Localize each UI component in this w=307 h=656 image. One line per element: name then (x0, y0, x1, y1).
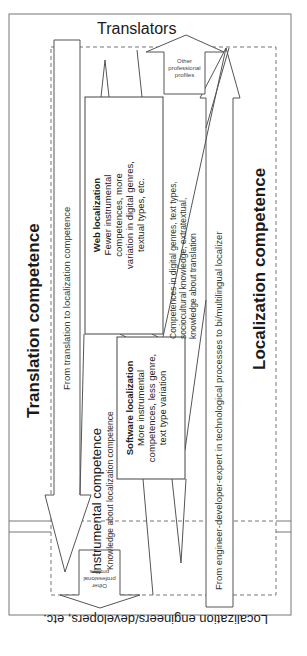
translators-label: Translators (97, 20, 176, 38)
software-localization-line1: More instrumental (135, 344, 146, 472)
other-profiles-top-label: Other professional profiles (164, 58, 205, 79)
software-localization-line3: text type variation (157, 344, 168, 472)
software-localization-line2: competences, less genre, (146, 344, 157, 472)
localization-engineers-label: Localization engineers/developers, etc. (43, 612, 268, 627)
other-profiles-top-line3: profiles (164, 72, 205, 79)
web-localization-title: Web localization (91, 110, 102, 320)
instrumental-competence-subtitle: Knowledge about localization competence (105, 411, 115, 570)
web-localization-text: Web localization Fewer instrumental comp… (91, 110, 146, 320)
right-arrow-label: From engineer-developer-expert in techno… (213, 231, 224, 590)
web-wedge-right (137, 50, 142, 97)
translation-knowledge-line2: sociocultural knowledge, extratextual, (178, 198, 188, 339)
other-profiles-bottom-label: Other professional profiles (79, 568, 120, 589)
other-profiles-top-line1: Other (164, 58, 205, 65)
web-localization-line1: Fewer instrumental (102, 110, 113, 320)
software-localization-text: Software localization More instrumental … (124, 344, 168, 472)
instrumental-competence-title: Instrumental competence (89, 428, 104, 574)
other-profiles-bottom-line1: Other (79, 582, 120, 589)
localization-competence-title: Localization competence (250, 168, 270, 370)
translation-competence-title: Translation competence (24, 223, 44, 418)
software-localization-title: Software localization (124, 344, 135, 472)
long-wedge-left (80, 334, 84, 495)
software-wedge-bottom-left (143, 479, 153, 595)
other-profiles-bottom-line2: professional (79, 575, 120, 582)
web-localization-line4: textual types, etc. (135, 110, 146, 320)
other-profiles-top-line2: professional (164, 65, 205, 72)
left-arrow-label: From translation to localization compete… (61, 207, 72, 390)
web-localization-line2: competences, more (113, 110, 124, 320)
translation-knowledge-line3: knowledge about translation (188, 233, 198, 339)
translation-knowledge-line1: Competences in digital genres, text type… (168, 181, 178, 339)
web-localization-line3: variation in digital genres, (124, 110, 135, 320)
other-profiles-bottom-line3: profiles (79, 568, 120, 575)
web-wedge-top (101, 60, 109, 97)
